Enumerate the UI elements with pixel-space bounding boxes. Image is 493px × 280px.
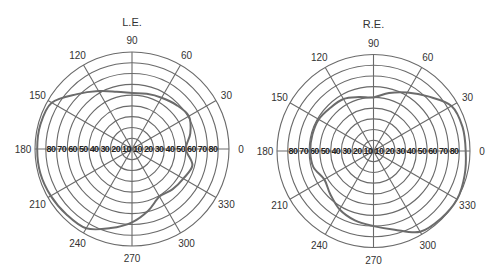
angle-tick-label: 120 [69, 50, 86, 61]
radial-tick-label: 50 [321, 146, 330, 156]
radial-tick-label: 80 [209, 144, 218, 154]
angle-tick-label: 150 [29, 90, 46, 101]
radial-tick-label: 10 [133, 144, 142, 154]
radial-tick-label: 20 [385, 146, 394, 156]
chart-title: L.E. [122, 16, 142, 28]
radial-tick-label: 60 [428, 146, 437, 156]
angle-tick-label: 150 [271, 92, 288, 103]
radial-tick-label: 70 [439, 146, 448, 156]
radial-tick-label: 60 [187, 144, 196, 154]
radial-tick-label: 40 [331, 146, 340, 156]
angle-tick-label: 60 [181, 50, 193, 61]
visual-field-curve [37, 91, 192, 230]
angle-tick-label: 240 [69, 238, 86, 249]
angle-tick-label: 240 [311, 240, 328, 251]
radial-tick-label: 30 [100, 144, 109, 154]
radial-tick-label: 80 [289, 146, 298, 156]
radial-tick-label: 50 [79, 144, 88, 154]
angle-tick-label: 30 [462, 92, 474, 103]
angle-tick-label: 270 [365, 255, 382, 266]
radial-tick-label: 50 [418, 146, 427, 156]
radial-tick-label: 70 [299, 146, 308, 156]
angle-tick-label: 270 [124, 253, 141, 264]
radial-tick-label: 80 [450, 146, 459, 156]
radial-tick-label: 10 [375, 146, 384, 156]
polar-chart-right-eye: R.E.030609012015018021024027030033010102… [257, 18, 486, 266]
radial-tick-label: 10 [364, 146, 373, 156]
radial-tick-label: 20 [111, 144, 120, 154]
angle-tick-label: 330 [459, 200, 476, 211]
radial-tick-label: 30 [396, 146, 405, 156]
angle-tick-label: 180 [15, 144, 32, 155]
radial-tick-label: 50 [176, 144, 185, 154]
angle-tick-label: 330 [218, 199, 235, 210]
radial-tick-label: 70 [198, 144, 207, 154]
angle-tick-label: 300 [419, 240, 436, 251]
radial-tick-label: 70 [57, 144, 66, 154]
angle-tick-label: 30 [221, 90, 233, 101]
polar-chart-left-eye: L.E.030609012015018021024027030033010102… [15, 16, 245, 264]
radial-tick-label: 60 [68, 144, 77, 154]
visual-field-curve [310, 92, 466, 232]
angle-tick-label: 0 [238, 144, 244, 155]
angle-tick-label: 210 [29, 199, 46, 210]
radial-tick-label: 30 [342, 146, 351, 156]
angle-tick-label: 0 [479, 146, 485, 157]
angle-tick-label: 210 [271, 200, 288, 211]
angle-tick-label: 180 [257, 146, 274, 157]
angle-tick-label: 90 [368, 38, 380, 49]
radial-tick-label: 20 [144, 144, 153, 154]
radial-tick-label: 20 [353, 146, 362, 156]
visual-field-charts: L.E.030609012015018021024027030033010102… [0, 0, 493, 280]
angle-tick-label: 300 [178, 238, 195, 249]
radial-tick-label: 80 [47, 144, 56, 154]
chart-title: R.E. [363, 18, 384, 30]
radial-tick-label: 10 [122, 144, 131, 154]
radial-tick-label: 40 [166, 144, 175, 154]
radial-tick-label: 40 [90, 144, 99, 154]
radial-tick-label: 40 [407, 146, 416, 156]
angle-tick-label: 120 [311, 52, 328, 63]
angle-tick-label: 90 [126, 35, 138, 46]
radial-tick-label: 30 [155, 144, 164, 154]
angle-tick-label: 60 [422, 52, 434, 63]
